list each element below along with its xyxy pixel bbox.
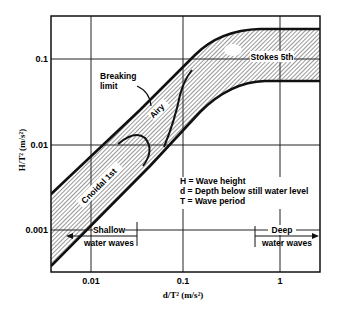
legend-h: H = Wave height — [180, 176, 246, 186]
y-tick-0.01: 0.01 — [30, 140, 48, 150]
x-axis-title: d/T² (m/s²) — [163, 290, 204, 300]
shallow-label-line2: water waves — [83, 238, 134, 248]
x-tick-1: 1 — [277, 276, 282, 286]
x-tick-0.01: 0.01 — [82, 276, 100, 286]
y-tick-0.1: 0.1 — [35, 54, 48, 64]
breaking-label-line2: limit — [100, 81, 118, 91]
variable-legend: H = Wave height d = Depth below still wa… — [176, 176, 316, 209]
y-tick-0.001: 0.001 — [25, 225, 48, 235]
breaking-label-line1: Breaking — [100, 71, 136, 81]
deep-label-line2: water waves — [261, 238, 312, 248]
region-label-stokes: Stokes 5th — [251, 52, 294, 62]
deep-water-annotation: Deep water waves — [255, 225, 319, 248]
y-axis-title: H/T² (m/s²) — [17, 129, 27, 172]
deep-label-line1: Deep — [272, 225, 293, 235]
legend-d: d = Depth below still water level — [180, 186, 308, 196]
wave-theory-chart: Stokes 5th Cnoidal 1st Airy Breaking lim… — [0, 0, 340, 313]
legend-t: T = Wave period — [180, 196, 245, 206]
x-tick-0.1: 0.1 — [177, 276, 190, 286]
shallow-label-line1: Shallow — [93, 225, 126, 235]
